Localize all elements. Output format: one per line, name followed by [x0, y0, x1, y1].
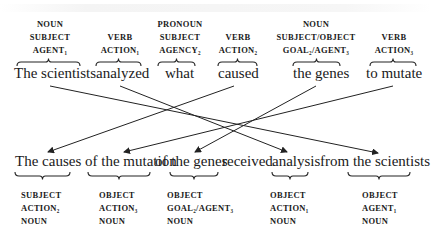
- brace-bottom-genes: [170, 172, 218, 180]
- brace-top-the-genes: [293, 58, 340, 66]
- arrow-to-mutate-to-mutation: [124, 86, 393, 152]
- arrow-caused-to-causes: [48, 86, 234, 152]
- arrow-analyzed-to-analysis: [120, 86, 287, 152]
- arrow-the-scientists-to-scientists: [50, 86, 378, 153]
- brace-top-what: [158, 58, 195, 66]
- brace-top-caused: [218, 58, 257, 66]
- brace-bottom-analysis: [272, 172, 308, 180]
- diagram-lines: [0, 0, 431, 235]
- brace-top-to-mutate: [370, 58, 416, 66]
- brace-top-analyzed: [96, 58, 141, 66]
- brace-bottom-mutation: [88, 172, 150, 180]
- brace-top-the-scientists: [17, 58, 80, 66]
- brace-bottom-causes: [15, 172, 70, 180]
- brace-bottom-scientists: [348, 172, 410, 180]
